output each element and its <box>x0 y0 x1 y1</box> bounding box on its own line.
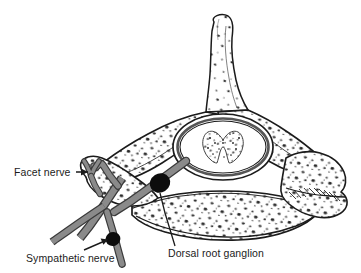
spinal-canal-group <box>173 114 273 180</box>
facet-nerve-label: Facet nerve <box>14 167 71 178</box>
vertebra-cross-section-figure <box>0 0 361 273</box>
dorsal-root-ganglion-label: Dorsal root ganglion <box>168 248 264 259</box>
sympathetic-nerve-label: Sympathetic nerve <box>26 253 115 264</box>
